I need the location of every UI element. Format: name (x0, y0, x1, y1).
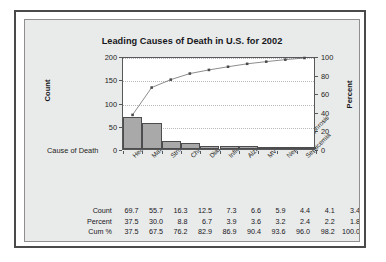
chart-outer-frame: Leading Causes of Death in U.S. for 2002… (14, 10, 366, 248)
x-tick-mark (316, 151, 317, 154)
y-axis-label-left: Count (43, 61, 52, 121)
table-cell: 6.6 (238, 206, 263, 217)
table-cell: 76.2 (164, 227, 189, 238)
table-row: Cum %37.567.576.282.986.990.493.696.098.… (73, 227, 360, 238)
y-tick-mark-right (315, 113, 318, 114)
y-tick-label-left: 100 (87, 100, 117, 109)
table-cell: 5.9 (262, 206, 287, 217)
table-cell: 3.6 (238, 217, 263, 228)
table-cell: 82.9 (188, 227, 213, 238)
line-marker (284, 58, 287, 61)
table-cell: 30.0 (139, 217, 164, 228)
y-tick-label-left: 0 (87, 146, 117, 155)
x-tick-mark (162, 151, 163, 154)
line-marker (169, 78, 172, 81)
y-tick-label-left: 50 (87, 123, 117, 132)
table-cell: 37.5 (115, 227, 140, 238)
chart-panel: Leading Causes of Death in U.S. for 2002… (24, 19, 360, 242)
line-marker (265, 60, 268, 63)
table-cell: 4.1 (311, 206, 336, 217)
plot-area (122, 57, 315, 150)
line-marker (246, 63, 249, 66)
table-row: Count69.755.716.312.57.36.65.94.44.13.4 (73, 206, 360, 217)
chart-title: Leading Causes of Death in U.S. for 2002 (25, 36, 359, 46)
y-tick-mark-left (119, 150, 122, 151)
y-tick-label-left: 200 (87, 53, 117, 62)
line-marker (303, 57, 306, 60)
x-tick-mark (200, 151, 201, 154)
line-marker (208, 69, 211, 72)
table-row-label: Cum % (73, 227, 115, 238)
table-cell: 93.6 (262, 227, 287, 238)
table-cell: 3.2 (262, 217, 287, 228)
y-tick-label-left: 150 (87, 76, 117, 85)
table-row: Percent37.530.08.86.73.93.63.22.42.21.8 (73, 217, 360, 228)
table-cell: 4.4 (287, 206, 312, 217)
table-cell: 98.2 (311, 227, 336, 238)
table-cell: 7.3 (213, 206, 238, 217)
y-tick-label-right: 0 (321, 146, 347, 155)
summary-table: Count69.755.716.312.57.36.65.94.44.13.4P… (73, 206, 360, 238)
table-cell: 55.7 (139, 206, 164, 217)
table-cell: 86.9 (213, 227, 238, 238)
line-marker (189, 72, 192, 75)
table-cell: 37.5 (115, 217, 140, 228)
table-cell: 2.4 (287, 217, 312, 228)
table-cell: 3.4 (336, 206, 360, 217)
table-cell: 3.9 (213, 217, 238, 228)
table-row-label: Percent (73, 217, 115, 228)
table-cell: 90.4 (238, 227, 263, 238)
table-cell: 96.0 (287, 227, 312, 238)
x-tick-mark (239, 151, 240, 154)
x-tick-mark (123, 151, 124, 154)
table-cell: 6.7 (188, 217, 213, 228)
table-cell: 8.8 (164, 217, 189, 228)
x-tick-mark (277, 151, 278, 154)
y-tick-mark-right (315, 76, 318, 77)
x-tick-mark (258, 151, 259, 154)
x-tick-mark (181, 151, 182, 154)
line-marker (227, 65, 230, 68)
table-cell: 69.7 (115, 206, 140, 217)
x-tick-mark (297, 151, 298, 154)
table-cell: 67.5 (139, 227, 164, 238)
data-table: Count69.755.716.312.57.36.65.94.44.13.4P… (25, 206, 360, 238)
x-tick-mark (142, 151, 143, 154)
line-marker (131, 114, 134, 117)
table-cell: 16.3 (164, 206, 189, 217)
table-cell: 2.2 (311, 217, 336, 228)
y-tick-label-right: 60 (321, 90, 347, 99)
table-cell: 12.5 (188, 206, 213, 217)
cumulative-line-series (123, 58, 314, 149)
y-tick-label-right: 100 (321, 53, 347, 62)
x-tick-mark (220, 151, 221, 154)
table-cell: 1.8 (336, 217, 360, 228)
y-tick-mark-right (315, 57, 318, 58)
table-cell: 100.0 (336, 227, 360, 238)
table-row-label: Count (73, 206, 115, 217)
y-tick-mark-right (315, 94, 318, 95)
y-tick-label-right: 80 (321, 72, 347, 81)
line-marker (150, 86, 153, 89)
